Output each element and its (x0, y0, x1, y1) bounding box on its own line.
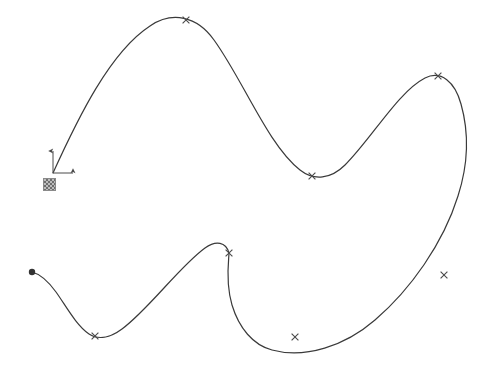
origin-axis-indicator[interactable] (53, 151, 73, 173)
control-point-marker[interactable] (292, 334, 299, 341)
curve-start-endpoint[interactable] (29, 269, 35, 275)
spline-curve[interactable] (32, 18, 466, 353)
origin-marker-square-icon[interactable] (43, 178, 56, 191)
spline-canvas-app (0, 0, 497, 374)
control-point-markers (92, 17, 448, 341)
drawing-canvas[interactable] (0, 0, 497, 374)
vector-drawing-layer (0, 0, 497, 374)
control-point-marker[interactable] (441, 272, 448, 279)
